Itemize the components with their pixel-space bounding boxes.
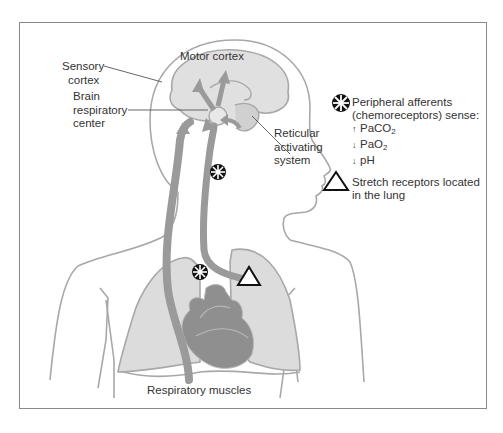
- brain-respiratory-center-label: Brain respiratory center: [73, 90, 127, 131]
- sensory-cortex-leader: [104, 66, 162, 82]
- legend-item-pao2: ↓PaO2: [352, 138, 479, 154]
- diaphragm-outline: [120, 371, 300, 376]
- respiratory-muscles-label: Respiratory muscles: [147, 384, 251, 398]
- neck-chemoreceptor-icon: [210, 164, 226, 180]
- legend-chemoreceptor-icon: [332, 94, 350, 112]
- up-arrow-icon: ↑: [352, 123, 360, 136]
- legend-chemoreceptors: Peripheral afferents (chemoreceptors) se…: [352, 96, 479, 168]
- chest-chemoreceptor-icon: [192, 264, 208, 280]
- sensory-cortex-label: Sensory cortex: [62, 60, 104, 87]
- legend-item-ph: ↓pH: [352, 154, 479, 168]
- legend-stretch-receptors: Stretch receptors located in the lung: [352, 176, 480, 202]
- motor-cortex-label: Motor cortex: [180, 50, 244, 64]
- legend-triangle-icon: [324, 172, 348, 190]
- right-shoulder-outline: [290, 240, 364, 382]
- reticular-activating-system-label: Reticular activating system: [274, 127, 323, 168]
- down-arrow-icon: ↓: [352, 155, 360, 168]
- down-arrow-icon: ↓: [352, 139, 360, 152]
- legend-item-paco2: ↑PaCO2: [352, 122, 479, 138]
